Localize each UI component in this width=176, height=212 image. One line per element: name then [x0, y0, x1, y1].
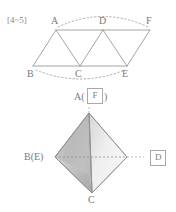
solid-label-BE: B(E) [24, 152, 43, 162]
net-vertex-label-B: B [27, 69, 34, 79]
apex-label-suffix: ) [104, 92, 107, 102]
solid-box-label-D: D [150, 150, 166, 166]
net-edge-A-C [56, 30, 80, 66]
net-vertex-label-A: A [51, 16, 58, 26]
net-edge-F-E [127, 30, 150, 66]
net-vertex-label-F: F [146, 16, 152, 26]
apex-box-label-F: F [87, 88, 103, 104]
net-edges [33, 30, 150, 66]
face-right-upper [89, 113, 127, 193]
geometry-figure-panel: [4~5] A D F B C E A( F ) B(E) D C [0, 0, 176, 212]
tetrahedron-shade-overlays [55, 113, 92, 193]
net-edge-D-E [103, 30, 127, 66]
figure-canvas [0, 0, 176, 212]
net-vertex-label-E: E [122, 69, 128, 79]
solid-label-C: C [88, 195, 95, 205]
net-vertex-label-D: D [99, 16, 106, 26]
problem-tag: [4~5] [7, 16, 27, 25]
face-center-dark [55, 113, 89, 175]
net-edge-D-C [80, 30, 103, 66]
net-vertex-label-C: C [75, 69, 82, 79]
net-edge-A-B [33, 30, 56, 66]
apex-label-prefix: A( [74, 92, 85, 102]
